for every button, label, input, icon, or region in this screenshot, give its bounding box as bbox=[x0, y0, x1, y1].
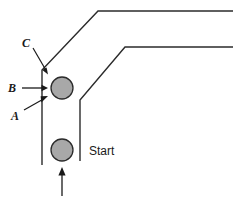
road-corner-diagram: C B A Start bbox=[0, 0, 233, 198]
c-leader-line bbox=[33, 48, 46, 70]
b-arrow-head-icon bbox=[42, 85, 49, 92]
upper-vehicle-marker bbox=[51, 77, 73, 99]
annotation-a bbox=[24, 96, 48, 110]
motion-arrow-head-icon bbox=[58, 167, 65, 176]
lower-vehicle-marker bbox=[51, 139, 73, 161]
label-start: Start bbox=[89, 144, 115, 158]
motion-direction-arrow bbox=[58, 167, 65, 196]
label-b: B bbox=[7, 81, 16, 95]
label-c: C bbox=[22, 36, 31, 50]
a-leader-line bbox=[24, 99, 44, 110]
annotation-b bbox=[22, 85, 48, 92]
a-arrow-head-icon bbox=[41, 96, 48, 103]
diagram-canvas: C B A Start bbox=[0, 0, 233, 198]
annotation-c bbox=[33, 48, 48, 75]
label-a: A bbox=[10, 109, 19, 123]
